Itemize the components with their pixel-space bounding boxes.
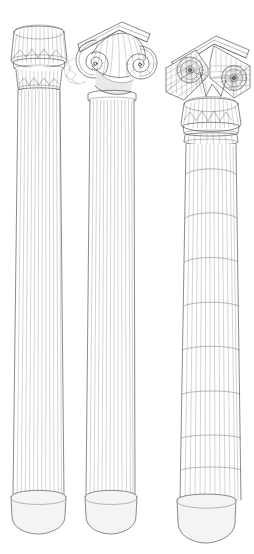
base-torus-middle — [85, 490, 137, 534]
rosette-right-petals — [222, 66, 246, 90]
line-drawing-canvas — [0, 0, 254, 554]
column-left — [11, 25, 67, 534]
shaft-fluted-middle — [86, 100, 135, 497]
column-illustration: Three Ancient Columns — [0, 0, 254, 554]
rosette-left — [177, 57, 203, 83]
rosette-left-petals — [178, 58, 202, 82]
shaft-fluted-left — [13, 90, 64, 497]
rosette-right — [222, 66, 247, 91]
capital-palm-bell — [11, 25, 67, 92]
base-torus-right — [177, 494, 236, 543]
base-torus-left — [11, 490, 66, 534]
shaft-drums-right — [180, 144, 241, 500]
